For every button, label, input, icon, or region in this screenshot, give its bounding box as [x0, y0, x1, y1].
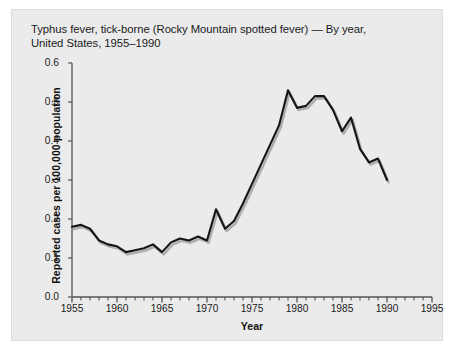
x-tick-label: 1970 [187, 303, 227, 314]
x-tick-label: 1985 [322, 303, 362, 314]
x-tick-label: 1955 [52, 303, 92, 314]
x-axis-label: Year [72, 320, 432, 332]
y-tick-label: 0.3 [33, 174, 59, 185]
chart-figure: Typhus fever, tick-borne (Rocky Mountain… [0, 0, 455, 356]
x-tick-label: 1965 [142, 303, 182, 314]
y-tick-label: 0.2 [33, 213, 59, 224]
y-tick-label: 0.0 [33, 291, 59, 302]
axis-lines [72, 63, 432, 297]
y-tick-label: 0.4 [33, 135, 59, 146]
y-tick-label: 0.6 [33, 57, 59, 68]
y-tick-label: 0.1 [33, 252, 59, 263]
x-tick-label: 1995 [412, 303, 452, 314]
plot-area: Reported cases per 100,000 population Ye… [0, 0, 455, 356]
x-tick-label: 1975 [232, 303, 272, 314]
x-tick-labels: 1955 1960 1965 1970 1975 1980 1985 1990 … [0, 303, 455, 319]
data-line-shadow [74, 93, 389, 255]
x-tick-label: 1990 [367, 303, 407, 314]
x-tick-label: 1960 [97, 303, 137, 314]
y-tick-label: 0.5 [33, 96, 59, 107]
x-tick-label: 1980 [277, 303, 317, 314]
